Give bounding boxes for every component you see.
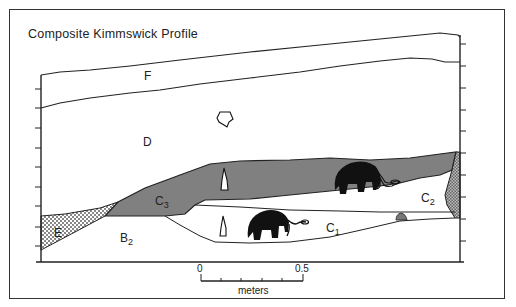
projectile-point-icon-lower — [220, 216, 226, 236]
scale-unit-label: meters — [238, 285, 269, 296]
mammoth-icon-lower — [248, 210, 309, 240]
layer-label-b2: B2 — [120, 231, 133, 247]
layer-label-f: F — [144, 69, 151, 83]
left-axis-ticks — [35, 89, 41, 246]
layer-label-d: D — [143, 135, 152, 149]
scale-start-label: 0 — [197, 263, 203, 274]
scale-end-label: 0.5 — [295, 263, 309, 274]
layer-f-d-boundary — [41, 58, 460, 108]
stratigraphic-profile: F D C3 C2 C1 B2 E 0 0.5 meters — [0, 0, 516, 307]
right-axis-ticks — [460, 44, 466, 241]
layer-f-top-line — [41, 33, 460, 75]
layer-e — [41, 202, 118, 250]
layer-c2-c1-boundary — [195, 205, 455, 212]
layer-label-e: E — [54, 226, 62, 240]
layer-label-c2: C2 — [421, 191, 435, 207]
scale-bar: 0 0.5 meters — [197, 263, 309, 296]
artifact-icon — [217, 112, 233, 127]
rock-icon — [396, 213, 407, 220]
layer-label-c1: C1 — [326, 221, 340, 237]
layer-c1-bottom — [165, 216, 455, 243]
